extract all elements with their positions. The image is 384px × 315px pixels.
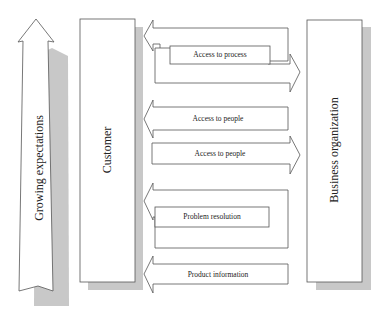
flow-product-information: Product information — [144, 256, 288, 293]
flow-label: Access to process — [193, 50, 246, 59]
flow-label: Product information — [188, 270, 249, 279]
flow-label: Access to people — [193, 114, 244, 123]
business-box: Business organization — [307, 20, 371, 290]
growing-expectations-label: Growing expectations — [32, 115, 46, 221]
flow-access-to-people-left: Access to people — [144, 100, 288, 138]
customer-label: Customer — [100, 127, 114, 174]
flow-label: Problem resolution — [183, 212, 241, 221]
diagram-canvas: Growing expectations Customer Business o… — [0, 0, 384, 315]
customer-box: Customer — [80, 19, 143, 290]
flow-access-to-people-right: Access to people — [152, 136, 300, 174]
flow-label: Access to people — [195, 149, 246, 158]
business-label: Business organization — [327, 97, 341, 202]
flow-access-to-process: Access to process — [144, 20, 300, 92]
growing-expectations-arrow: Growing expectations — [18, 19, 69, 306]
flow-problem-resolution: Problem resolution — [144, 183, 288, 248]
